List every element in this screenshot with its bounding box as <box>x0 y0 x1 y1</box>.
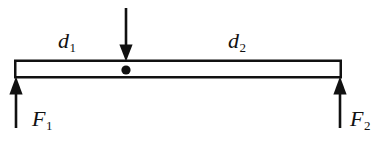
label-force-f1-base: F <box>32 106 45 131</box>
label-distance-d2-subscript: 2 <box>240 40 247 55</box>
downward-load-arrow <box>119 8 132 62</box>
label-force-f1-subscript: 1 <box>46 118 53 133</box>
label-distance-d2-base: d <box>228 28 239 53</box>
diagram-canvas <box>0 0 385 146</box>
label-distance-d1: d1 <box>58 30 76 54</box>
label-force-f2-subscript: 2 <box>364 118 371 133</box>
label-distance-d2: d2 <box>228 30 246 54</box>
fulcrum-pivot-dot <box>121 65 130 74</box>
upward-force-arrow-left <box>9 77 22 129</box>
label-distance-d1-base: d <box>58 28 69 53</box>
label-force-f1: F1 <box>32 108 52 132</box>
label-force-f2: F2 <box>350 108 370 132</box>
label-distance-d1-subscript: 1 <box>70 40 77 55</box>
beam <box>15 61 341 78</box>
free-body-diagram-figure: d1 d2 F1 F2 <box>0 0 385 146</box>
upward-force-arrow-right <box>333 77 346 129</box>
label-force-f2-base: F <box>350 106 363 131</box>
